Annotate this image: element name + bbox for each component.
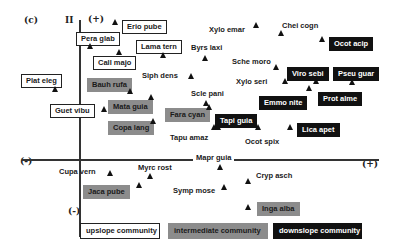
species-label-tapi-guia: Tapi guia xyxy=(215,114,257,128)
species-label-xylo-seri: Xylo seri xyxy=(236,78,267,86)
triangle-marker-icon xyxy=(147,173,153,179)
triangle-marker-icon xyxy=(255,124,261,130)
triangle-marker-icon xyxy=(273,64,279,70)
species-label-copa-lang: Copa lang xyxy=(108,121,154,135)
species-label-bauh-rufa: Bauh rufa xyxy=(87,78,132,92)
species-label-jaca-pube: Jaca pube xyxy=(83,185,130,199)
triangle-marker-icon xyxy=(116,49,122,55)
legend-downslope: downslope community xyxy=(273,223,362,239)
triangle-marker-icon xyxy=(215,124,221,130)
species-label-byrs-laxi: Byrs laxi xyxy=(191,44,222,52)
species-label-guet-vibu: Guet vibu xyxy=(50,104,95,118)
triangle-marker-icon xyxy=(278,30,284,36)
triangle-marker-icon xyxy=(253,22,259,28)
triangle-marker-icon xyxy=(112,19,118,25)
species-label-viro-sebi: Viro sebi xyxy=(287,67,329,81)
legend-intermediate: intermediate community xyxy=(168,223,268,239)
triangle-marker-icon xyxy=(188,73,194,79)
triangle-marker-icon xyxy=(148,94,154,100)
species-label-ocot-acip: Ocot acip xyxy=(329,37,373,51)
species-label-mapr-guia: Mapr guia xyxy=(196,154,231,162)
species-label-inga-alba: Inga alba xyxy=(257,202,300,216)
species-label-sche-moro: Sche moro xyxy=(232,58,271,66)
triangle-marker-icon xyxy=(107,170,113,176)
triangle-marker-icon xyxy=(206,104,212,110)
species-label-ocot-spix: Ocot spix xyxy=(245,138,279,146)
species-label-prot-alme: Prot alme xyxy=(318,92,362,106)
triangle-marker-icon xyxy=(217,164,223,170)
species-label-call-majo: Call majo xyxy=(93,56,136,70)
species-label-lama-tern: Lama tern xyxy=(136,40,182,54)
species-label-scle-pani: Scle pani xyxy=(191,90,224,98)
triangle-marker-icon xyxy=(306,85,312,91)
triangle-marker-icon xyxy=(52,86,58,92)
species-label-cryp-asch: Cryp asch xyxy=(256,172,292,180)
species-label-pseu-guar: Pseu guar xyxy=(333,67,379,81)
species-label-xylo-emar: Xylo emar xyxy=(209,26,245,34)
x-axis-plus-label: (+) xyxy=(362,160,378,169)
triangle-marker-icon xyxy=(87,43,93,49)
triangle-marker-icon xyxy=(127,88,133,94)
species-label-cupa-vern: Cupa vern xyxy=(59,168,96,176)
species-label-lica-apet: Lica apet xyxy=(297,123,340,137)
triangle-marker-icon xyxy=(101,106,107,112)
triangle-marker-icon xyxy=(221,184,227,190)
species-label-fara-cyan: Fara cyan xyxy=(165,108,210,122)
species-label-mata-guia: Mata guia xyxy=(108,100,153,114)
x-axis-line-right xyxy=(234,159,379,161)
triangle-marker-icon xyxy=(245,178,251,184)
triangle-marker-icon xyxy=(349,79,355,85)
legend-upslope: upslope community xyxy=(80,223,160,239)
triangle-marker-icon xyxy=(150,118,156,124)
panel-label: (c) xyxy=(24,16,38,25)
triangle-marker-icon xyxy=(282,78,288,84)
y-axis-line xyxy=(79,20,81,237)
triangle-marker-icon xyxy=(160,52,166,58)
species-label-myrc-rost: Myrc rost xyxy=(138,164,172,172)
species-label-emmo-nite: Emmo nite xyxy=(259,96,307,110)
triangle-marker-icon xyxy=(136,182,142,188)
species-label-chei-cogn: Chei cogn xyxy=(282,22,318,30)
y-axis-plus-label: (+) xyxy=(88,15,104,24)
species-label-symp-mose: Symp mose xyxy=(173,187,215,195)
species-label-pera-glab: Pera glab xyxy=(76,32,120,46)
triangle-marker-icon xyxy=(245,204,251,210)
species-label-tapu-amaz: Tapu amaz xyxy=(170,134,208,142)
x-axis-line-left xyxy=(22,159,193,161)
triangle-marker-icon xyxy=(313,78,319,84)
species-label-siph-dens: Siph dens xyxy=(142,72,178,80)
y-axis-label: II xyxy=(65,16,73,25)
triangle-marker-icon xyxy=(319,36,325,42)
species-label-erio-pube: Erio pube xyxy=(122,20,167,34)
triangle-marker-icon xyxy=(287,124,293,130)
triangle-marker-icon xyxy=(202,55,208,61)
